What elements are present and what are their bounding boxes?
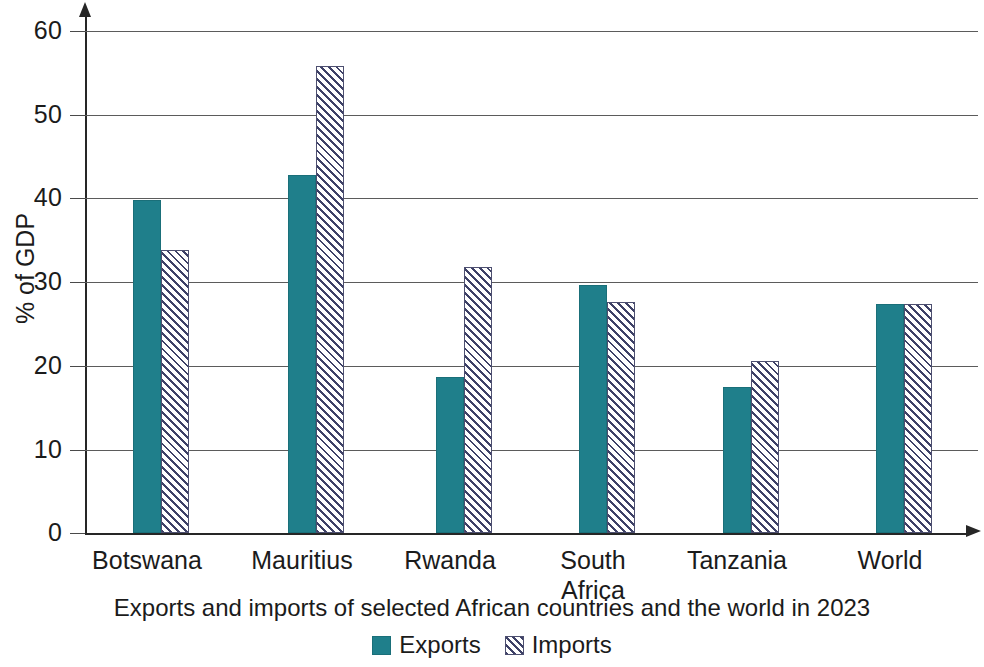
bar-imports-botswana — [161, 250, 189, 533]
y-tick-label-20: 20 — [6, 353, 62, 378]
legend-label-exports: Exports — [399, 632, 480, 658]
legend-entry-imports: Imports — [505, 632, 612, 658]
y-tick-mark-20 — [70, 366, 85, 367]
y-tick-label-60: 60 — [6, 18, 62, 43]
bar-exports-south-africa — [579, 285, 607, 533]
bar-exports-botswana — [133, 200, 161, 533]
gridline-10 — [85, 450, 978, 451]
gridline-40 — [85, 198, 978, 199]
legend-swatch-imports-icon — [505, 636, 524, 655]
y-tick-mark-30 — [70, 282, 85, 283]
bar-imports-mauritius — [316, 66, 344, 533]
y-axis-title: % of GDP — [12, 189, 39, 349]
x-category-label-mauritius: Mauritius — [227, 545, 377, 575]
bar-imports-tanzania — [751, 361, 779, 533]
bar-exports-rwanda — [436, 377, 464, 533]
bar-imports-south-africa — [607, 302, 635, 533]
gridline-20 — [85, 366, 978, 367]
y-tick-mark-50 — [70, 115, 85, 116]
y-tick-label-0: 0 — [6, 520, 62, 545]
bar-imports-world — [904, 304, 932, 533]
x-category-label-tanzania: Tanzania — [662, 545, 812, 575]
y-tick-mark-60 — [70, 31, 85, 32]
x-category-label-botswana: Botswana — [72, 545, 222, 575]
legend-swatch-exports-icon — [372, 636, 391, 655]
y-axis-arrow-icon — [79, 2, 91, 17]
chart-caption: Exports and imports of selected African … — [0, 594, 984, 622]
bar-chart-figure: 60 50 40 30 20 10 0 % of GDP — [0, 0, 984, 667]
y-tick-mark-0 — [70, 533, 85, 534]
y-tick-mark-40 — [70, 198, 85, 199]
x-axis-line — [85, 533, 969, 535]
legend-entry-exports: Exports — [372, 632, 480, 658]
gridline-30 — [85, 282, 978, 283]
chart-legend: Exports Imports — [0, 632, 984, 658]
bar-imports-rwanda — [464, 267, 492, 533]
x-category-label-rwanda: Rwanda — [375, 545, 525, 575]
plot-area — [85, 31, 978, 533]
y-tick-label-10: 10 — [6, 437, 62, 462]
bar-exports-world — [876, 304, 904, 533]
gridline-60 — [85, 31, 978, 32]
gridline-50 — [85, 115, 978, 116]
y-tick-label-50: 50 — [6, 102, 62, 127]
bar-exports-mauritius — [288, 175, 316, 533]
x-category-label-world: World — [815, 545, 965, 575]
y-tick-mark-10 — [70, 450, 85, 451]
bar-exports-tanzania — [723, 387, 751, 533]
legend-label-imports: Imports — [532, 632, 612, 658]
